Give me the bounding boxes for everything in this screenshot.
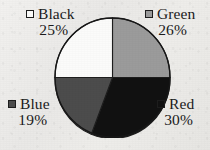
legend-label-black: Black (38, 6, 75, 22)
legend-percent-blue: 19% (16, 112, 50, 128)
legend-item-red[interactable]: Red 30% (157, 96, 194, 128)
legend-percent-red: 30% (163, 112, 194, 128)
legend-label-green: Green (157, 6, 195, 22)
legend-swatch-red-icon (157, 100, 165, 108)
legend-item-black[interactable]: Black 25% (26, 6, 75, 38)
legend-swatch-green-icon (145, 10, 153, 18)
legend-row-black: Black (26, 6, 75, 22)
pie-chart-figure: Black 25% Green 26% Blue 19% Red 30% (0, 0, 210, 150)
legend-percent-black: 25% (33, 22, 75, 38)
legend-row-blue: Blue (8, 96, 50, 112)
legend-row-green: Green (145, 6, 195, 22)
legend-item-blue[interactable]: Blue 19% (8, 96, 50, 128)
legend-label-red: Red (169, 96, 194, 112)
legend-row-red: Red (157, 96, 194, 112)
legend-swatch-blue-icon (8, 100, 16, 108)
legend-item-green[interactable]: Green 26% (145, 6, 195, 38)
legend-swatch-black-icon (26, 10, 34, 18)
legend-label-blue: Blue (20, 96, 50, 112)
legend-percent-green: 26% (150, 22, 195, 38)
